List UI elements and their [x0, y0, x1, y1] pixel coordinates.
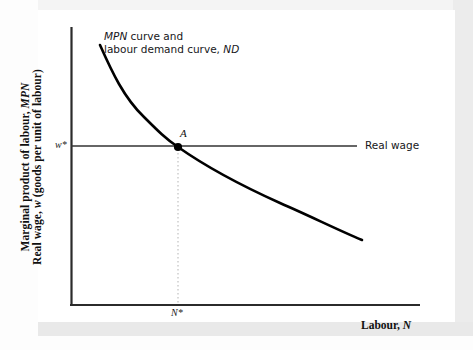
chart-figure: MPN curve and labour demand curve, ND Ma…	[0, 0, 473, 350]
curve-annotation: MPN curve and labour demand curve, ND	[104, 30, 239, 56]
mpn-labour-demand-curve	[100, 45, 362, 240]
curve-annotation-line-1: MPN curve and	[104, 30, 239, 43]
y-axis-label-w: w	[31, 200, 43, 208]
equilibrium-point-label: A	[180, 127, 187, 141]
y-axis-label-line-2: Real wage, w (goods per unit of labour)	[31, 37, 43, 297]
y-axis-label: Marginal product of labour, MPN Real wag…	[19, 37, 53, 297]
x-axis-label: Labour, N	[361, 318, 411, 332]
x-axis-label-n: N	[403, 319, 411, 331]
x-axis-tick-label-nstar: N*	[171, 307, 183, 320]
equilibrium-point-marker	[174, 143, 182, 151]
y-axis-label-line-1-text: Marginal product of labour,	[19, 108, 31, 251]
y-axis-tick-label-wstar: w*	[55, 139, 67, 152]
curve-annotation-line-1-rest: curve and	[127, 30, 183, 42]
curve-annotation-line-2: labour demand curve, ND	[104, 43, 239, 56]
curve-annotation-mpn: MPN	[104, 30, 127, 42]
curve-annotation-line-2-rest: labour demand curve,	[104, 43, 223, 55]
real-wage-line-label: Real wage	[365, 139, 419, 152]
x-axis-label-text: Labour,	[361, 319, 403, 331]
y-axis-label-line-1: Marginal product of labour, MPN	[19, 37, 31, 297]
y-axis-label-line-2-pre: Real wage,	[31, 208, 43, 265]
curve-annotation-nd: ND	[223, 43, 239, 55]
y-axis-label-mpn: MPN	[19, 83, 31, 109]
y-axis-label-line-2-post: (goods per unit of labour)	[31, 69, 43, 200]
